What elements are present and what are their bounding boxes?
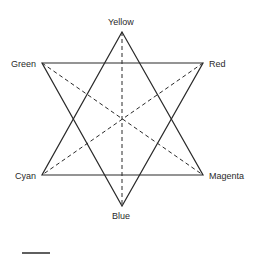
label-red: Red xyxy=(209,59,226,69)
label-green: Green xyxy=(11,59,36,69)
label-yellow: Yellow xyxy=(108,17,134,27)
label-blue: Blue xyxy=(112,211,130,221)
label-magenta: Magenta xyxy=(209,171,244,181)
label-cyan: Cyan xyxy=(15,171,36,181)
